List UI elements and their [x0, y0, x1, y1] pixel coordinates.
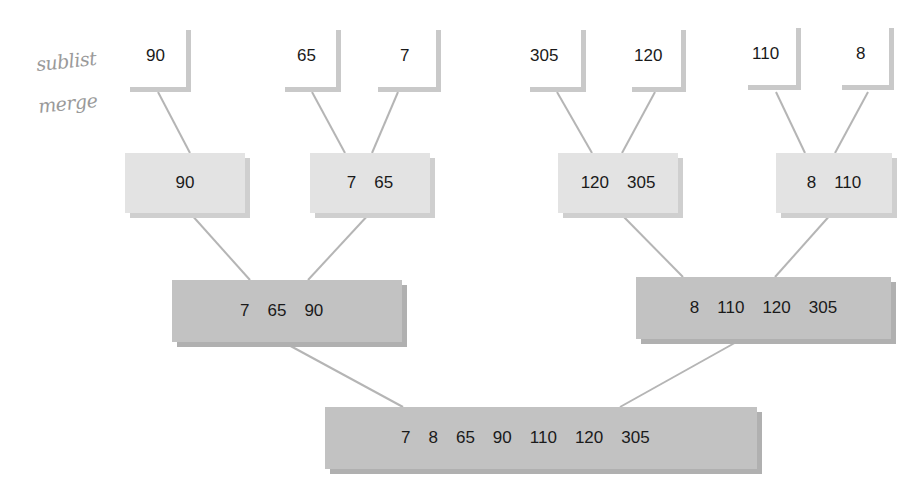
leaf-node: 90: [130, 30, 191, 92]
leaf-value: 7: [400, 46, 409, 66]
node-value: 8: [690, 298, 699, 318]
merge-level1-node: 120 305: [558, 153, 678, 213]
node-value: 90: [176, 173, 195, 193]
node-value: 90: [493, 428, 512, 448]
node-value: 7: [401, 428, 410, 448]
merge-level2-node: 8 110 120 305: [636, 277, 891, 339]
leaf-value: 8: [856, 44, 865, 64]
leaf-value: 110: [752, 44, 779, 64]
leaf-node: 305: [530, 30, 586, 92]
leaf-value: 65: [297, 46, 316, 66]
node-value: 305: [621, 428, 649, 448]
node-value: 120: [581, 173, 609, 193]
node-value: 8: [428, 428, 437, 448]
merge-level1-node: 7 65: [310, 153, 430, 213]
leaf-node: 65: [285, 30, 341, 92]
node-value: 7: [240, 301, 249, 321]
leaf-value: 120: [634, 46, 662, 66]
leaf-node: 8: [842, 28, 894, 90]
leaf-node: 7: [378, 30, 441, 92]
node-value: 65: [374, 173, 393, 193]
node-value: 110: [717, 298, 744, 318]
node-value: 120: [762, 298, 790, 318]
merge-final-node: 7 8 65 90 110 120 305: [325, 407, 757, 469]
node-value: 305: [809, 298, 837, 318]
leaf-value: 90: [146, 46, 165, 66]
node-value: 8: [807, 173, 816, 193]
node-value: 120: [575, 428, 603, 448]
leaf-node: 120: [632, 30, 686, 92]
node-value: 90: [304, 301, 323, 321]
merge-level1-node: 90: [125, 153, 245, 213]
node-value: 110: [530, 428, 557, 448]
leaf-node: 110: [748, 28, 801, 90]
node-value: 305: [627, 173, 655, 193]
leaf-value: 305: [530, 46, 558, 66]
node-value: 7: [347, 173, 356, 193]
merge-sort-diagram: sublist merge 90 65 7 305 120 110 8 90 7…: [0, 0, 911, 495]
annotation-sublist: sublist: [35, 47, 97, 75]
annotation-merge: merge: [37, 89, 98, 117]
node-value: 110: [834, 173, 861, 193]
merge-level2-node: 7 65 90: [172, 280, 402, 342]
node-value: 65: [456, 428, 475, 448]
merge-level1-node: 8 110: [776, 153, 892, 213]
node-value: 65: [267, 301, 286, 321]
